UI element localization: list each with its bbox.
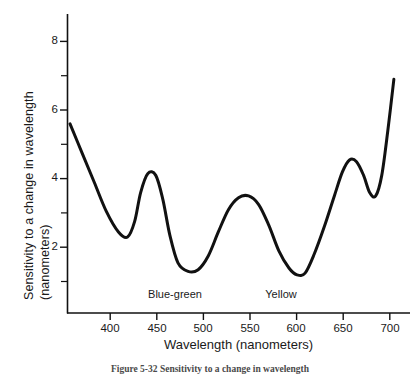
annotation-blue-green: Blue-green <box>135 288 215 300</box>
x-tick-label-550: 550 <box>230 322 270 334</box>
data-series-line <box>70 79 394 275</box>
plot-area <box>0 0 420 374</box>
x-tick-label-650: 650 <box>323 322 363 334</box>
x-tick-label-700: 700 <box>370 322 410 334</box>
x-tick-label-400: 400 <box>90 322 130 334</box>
figure-caption: Figure 5-32 Sensitivity to a change in w… <box>0 364 420 374</box>
figure-wavelength-sensitivity: Sensitivity to a change in wavelength (n… <box>0 0 420 374</box>
x-tick-label-450: 450 <box>137 322 177 334</box>
y-tick-label-6: 6 <box>38 103 58 115</box>
y-tick-label-4: 4 <box>38 171 58 183</box>
x-axis-title: Wavelength (nanometers) <box>67 337 410 352</box>
x-tick-label-600: 600 <box>276 322 316 334</box>
y-tick-label-2: 2 <box>38 240 58 252</box>
x-tick-label-500: 500 <box>183 322 223 334</box>
x-axis-ticks <box>110 313 390 320</box>
y-tick-label-8: 8 <box>38 34 58 46</box>
annotation-yellow: Yellow <box>251 288 311 300</box>
